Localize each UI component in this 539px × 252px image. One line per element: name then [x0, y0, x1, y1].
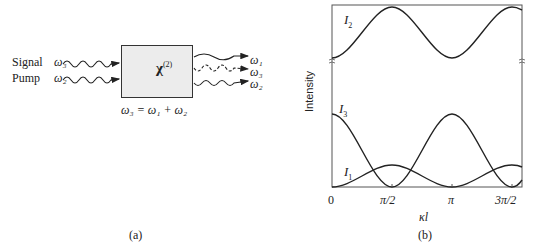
curve-label-I1: I1 [344, 164, 352, 182]
x-tick-pi: π [448, 193, 454, 208]
curve-I1 [332, 165, 522, 187]
curve-I2 [332, 7, 522, 58]
output-wave-1-icon [194, 54, 248, 60]
x-axis-label: κl [419, 210, 428, 225]
x-tick-3pi-over-2: 3π/2 [495, 193, 516, 208]
output-wave-3-icon [194, 65, 248, 71]
curve-label-I3: I3 [339, 101, 347, 119]
output-wave-2-icon [194, 81, 248, 86]
panel-b-caption: (b) [418, 228, 432, 243]
diagram-drawing [0, 0, 539, 252]
x-tick-pi-over-2: π/2 [380, 193, 395, 208]
x-tick-0: 0 [328, 193, 334, 208]
plot-frame [332, 5, 522, 187]
pump-wave-icon [63, 77, 119, 83]
signal-wave-icon [63, 61, 119, 67]
curve-label-I2: I2 [344, 12, 352, 30]
y-axis-label: Intensity [303, 71, 315, 112]
